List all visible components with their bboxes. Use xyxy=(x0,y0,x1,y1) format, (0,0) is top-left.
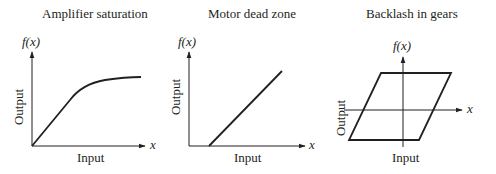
y-axis-symbol: f(x) xyxy=(178,34,196,50)
x-axis-symbol: x xyxy=(150,137,156,153)
y-axis-label: Output xyxy=(11,89,27,125)
diagram-canvas xyxy=(0,0,496,174)
y-axis-symbol: f(x) xyxy=(393,38,411,54)
x-axis-label: Input xyxy=(77,150,104,166)
x-axis-label: Input xyxy=(392,150,419,166)
x-axis-label: Input xyxy=(234,150,261,166)
y-axis-label: Output xyxy=(168,79,184,115)
y-axis-label: Output xyxy=(333,100,349,136)
y-axis-symbol: f(x) xyxy=(22,34,40,50)
backlash-loop xyxy=(349,73,451,140)
x-axis-symbol: x xyxy=(467,101,473,117)
saturation-curve xyxy=(32,77,141,146)
x-axis-symbol: x xyxy=(309,137,315,153)
dead-zone-line xyxy=(209,71,282,146)
